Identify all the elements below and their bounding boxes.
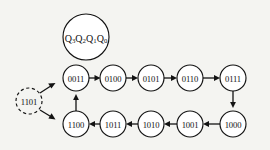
edge-1010-to-1011 <box>126 121 138 127</box>
state-node-label: 1001 <box>182 120 199 130</box>
state-node-label: 1011 <box>105 120 121 130</box>
edge-1001-to-1010 <box>164 121 177 127</box>
state-node-0111[interactable]: 0111 <box>220 65 246 91</box>
state-diagram-canvas: Q3Q2Q1Q0 0011 0100 0101 0110 01 <box>0 0 270 150</box>
state-node-1101-unused[interactable]: 1101 <box>16 88 42 114</box>
legend-label: Q3Q2Q1Q0 <box>65 32 108 44</box>
state-node-1000[interactable]: 1000 <box>220 111 246 137</box>
state-diagram: Q3Q2Q1Q0 0011 0100 0101 0110 01 <box>0 0 270 150</box>
state-node-0110[interactable]: 0110 <box>177 65 203 91</box>
state-node-label: 0100 <box>105 74 122 84</box>
state-node-label: 0011 <box>68 74 84 84</box>
state-node-label: 0110 <box>182 74 198 84</box>
edge-1011-to-1100 <box>89 121 100 127</box>
edge-1000-to-1001 <box>203 121 220 127</box>
edge-0011-to-0100 <box>89 75 101 81</box>
state-node-0101[interactable]: 0101 <box>138 65 164 91</box>
edge-1101-to-0011 <box>40 83 56 93</box>
state-node-label: 1101 <box>21 97 37 107</box>
state-node-1001[interactable]: 1001 <box>177 111 203 137</box>
state-variable-legend: Q3Q2Q1Q0 <box>63 14 109 60</box>
state-node-1010[interactable]: 1010 <box>138 111 164 137</box>
edge-0100-to-0101 <box>126 75 138 81</box>
state-node-1011[interactable]: 1011 <box>100 111 126 137</box>
state-node-label: 0111 <box>225 74 241 84</box>
state-node-0100[interactable]: 0100 <box>100 65 126 91</box>
state-node-label: 1000 <box>225 120 242 130</box>
state-node-label: 1010 <box>143 120 160 130</box>
edge-1101-to-1100 <box>40 110 56 120</box>
edge-0111-to-1000 <box>230 91 236 108</box>
state-node-label: 1100 <box>68 120 84 130</box>
edge-0101-to-0110 <box>164 75 177 81</box>
state-node-0011[interactable]: 0011 <box>63 65 89 91</box>
edge-1100-to-0011 <box>73 94 79 111</box>
state-node-1100[interactable]: 1100 <box>63 111 89 137</box>
state-node-label: 0101 <box>143 74 160 84</box>
edge-0110-to-0111 <box>203 75 220 81</box>
